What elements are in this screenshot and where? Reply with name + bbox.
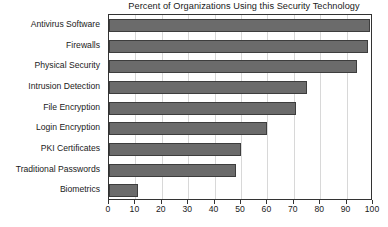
bar-row — [109, 143, 373, 156]
bar-row — [109, 60, 373, 73]
bar-row — [109, 102, 373, 115]
bar — [109, 122, 267, 135]
x-tick-label: 80 — [314, 204, 324, 214]
y-axis-label: Biometrics — [60, 183, 100, 196]
bar-row — [109, 19, 373, 32]
bar-row — [109, 122, 373, 135]
y-axis-label: Firewalls — [66, 39, 100, 52]
bar-row — [109, 81, 373, 94]
x-tick-label: 20 — [156, 204, 166, 214]
x-tick-label: 90 — [341, 204, 351, 214]
bar-row — [109, 40, 373, 53]
y-axis-label: File Encryption — [43, 101, 100, 114]
x-tick-label: 10 — [130, 204, 140, 214]
bar — [109, 60, 357, 73]
y-axis-label: Physical Security — [35, 59, 100, 72]
x-tick-label: 60 — [262, 204, 272, 214]
bar — [109, 81, 307, 94]
y-axis-label: PKI Certificates — [41, 142, 100, 155]
y-axis-label: Intrusion Detection — [28, 80, 100, 93]
x-tick-label: 70 — [288, 204, 298, 214]
bar — [109, 143, 241, 156]
chart-title: Percent of Organizations Using this Secu… — [104, 1, 384, 11]
y-axis-label: Login Encryption — [36, 121, 100, 134]
x-axis-tick-labels: 0102030405060708090100 — [108, 204, 372, 218]
bar — [109, 19, 370, 32]
bars-layer — [109, 15, 371, 199]
bar-row — [109, 184, 373, 197]
x-tick-label: 0 — [106, 204, 111, 214]
x-tick-label: 50 — [235, 204, 245, 214]
x-tick-label: 40 — [209, 204, 219, 214]
bar-chart-figure: Percent of Organizations Using this Secu… — [0, 0, 388, 227]
y-axis-label: Antivirus Software — [31, 18, 100, 31]
bar — [109, 184, 138, 197]
bar — [109, 40, 368, 53]
bar — [109, 164, 236, 177]
x-tick-label: 30 — [182, 204, 192, 214]
y-axis-label: Traditional Passwords — [16, 163, 100, 176]
y-axis-category-labels: Antivirus SoftwareFirewallsPhysical Secu… — [0, 14, 104, 200]
bar — [109, 102, 296, 115]
x-tick-label: 100 — [365, 204, 379, 214]
plot-area — [108, 14, 372, 200]
bar-row — [109, 164, 373, 177]
